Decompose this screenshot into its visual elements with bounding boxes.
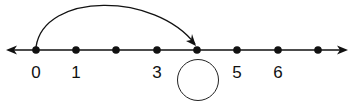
- tick-point-4: [193, 46, 201, 54]
- tick-point-1: [72, 46, 80, 54]
- tick-label-0: 0: [31, 64, 40, 81]
- tick-point-2: [112, 46, 120, 54]
- tick-label-3: 3: [152, 64, 161, 81]
- tick-point-5: [233, 46, 241, 54]
- tick-label-1: 1: [71, 64, 80, 81]
- answer-blank-circle[interactable]: [177, 59, 219, 101]
- tick-label-5: 5: [232, 64, 241, 81]
- tick-point-3: [153, 46, 161, 54]
- tick-label-6: 6: [273, 64, 282, 81]
- tick-point-7: [314, 46, 322, 54]
- jump-arc: [36, 5, 195, 47]
- tick-point-0: [32, 46, 40, 54]
- tick-point-6: [274, 46, 282, 54]
- number-line-graphic: [0, 0, 354, 105]
- number-line-diagram: 01356: [0, 0, 354, 105]
